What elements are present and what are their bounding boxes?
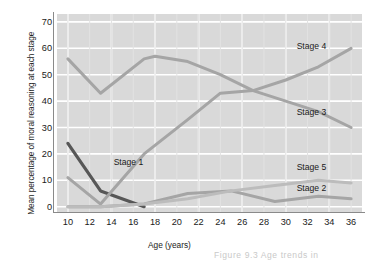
x-tick-label: 28 xyxy=(259,217,269,227)
y-tick-label: 0 xyxy=(47,202,52,212)
y-tick-label: 60 xyxy=(42,43,52,53)
x-tick-label: 12 xyxy=(85,217,95,227)
x-tick-label: 24 xyxy=(215,217,225,227)
y-tick-label: 70 xyxy=(42,17,52,27)
x-tick-label: 26 xyxy=(237,217,247,227)
series-label-stage-2: Stage 2 xyxy=(297,183,327,193)
y-tick-label: 50 xyxy=(42,70,52,80)
x-tick-label: 14 xyxy=(106,217,116,227)
x-tick-label: 32 xyxy=(302,217,312,227)
y-tick-label: 10 xyxy=(42,175,52,185)
y-axis-line xyxy=(53,12,54,213)
plot-area: 010203040506070 101214161820222426283032… xyxy=(57,14,362,212)
series-label-stage-1: Stage 1 xyxy=(114,157,144,167)
series-label-stage-3: Stage 3 xyxy=(297,107,327,117)
y-tick-label: 30 xyxy=(42,123,52,133)
series-label-stage-5: Stage 5 xyxy=(297,162,327,172)
figure-moral-reasoning-by-age: Mean percentage of moral reasoning at ea… xyxy=(0,0,375,261)
series-line-stage-3 xyxy=(68,56,351,127)
x-tick-label: 34 xyxy=(324,217,334,227)
x-axis-line xyxy=(53,212,365,213)
x-axis-title: Age (years) xyxy=(148,240,191,250)
y-tick-label: 20 xyxy=(42,149,52,159)
figure-caption: Figure 9.3 Age trends in xyxy=(214,250,319,260)
x-tick-label: 36 xyxy=(346,217,356,227)
x-tick-label: 30 xyxy=(281,217,291,227)
x-tick-label: 16 xyxy=(128,217,138,227)
x-tick-label: 10 xyxy=(63,217,73,227)
x-tick-label: 18 xyxy=(150,217,160,227)
y-tick-label: 40 xyxy=(42,96,52,106)
x-tick-label: 22 xyxy=(193,217,203,227)
y-axis-title: Mean percentage of moral reasoning at ea… xyxy=(26,28,37,218)
x-tick-label: 20 xyxy=(172,217,182,227)
series-label-stage-4: Stage 4 xyxy=(297,41,327,51)
